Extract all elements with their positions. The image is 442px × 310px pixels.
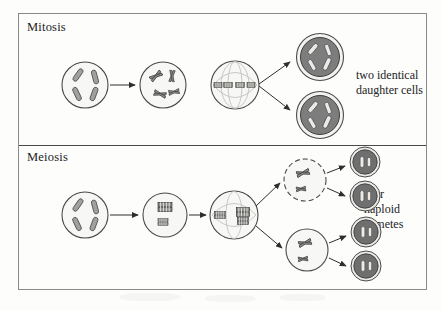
mitosis-stage-parent-cell — [62, 62, 108, 108]
figure-page: Mitosis Meiosis two identical daughter c… — [0, 0, 442, 310]
mitosis-stage-metaphase-spindle-cell — [211, 61, 259, 109]
meiosis-stage-metaphase-i-spindle-cell — [210, 191, 258, 239]
arrow-mitosis-split-top — [259, 62, 290, 84]
diagram-canvas — [0, 0, 442, 310]
arrow-gamete-4 — [329, 258, 346, 266]
mitosis-daughter-cell-top — [297, 34, 344, 81]
meiosis-intermediate-cell-bottom — [286, 229, 328, 271]
meiosis-intermediate-cell-top — [284, 159, 326, 201]
mitosis-stage-replicated-cell — [140, 62, 186, 108]
arrow-gamete-2 — [327, 188, 345, 196]
arrow-gamete-1 — [327, 166, 345, 173]
meiosis-stage-parent-cell — [62, 192, 108, 238]
arrow-meiosis-split-top — [256, 183, 280, 206]
mitosis-daughter-cell-bottom — [297, 92, 344, 139]
arrow-gamete-3 — [329, 236, 346, 243]
meiosis-gamete-1 — [350, 147, 380, 177]
meiosis-stage-paired-tetrad-cell — [143, 193, 187, 237]
meiosis-gamete-3 — [351, 217, 381, 247]
arrow-mitosis-split-bottom — [259, 86, 290, 110]
meiosis-gamete-4 — [351, 251, 381, 281]
arrow-meiosis-split-bottom — [256, 226, 282, 248]
meiosis-gamete-2 — [350, 181, 380, 211]
